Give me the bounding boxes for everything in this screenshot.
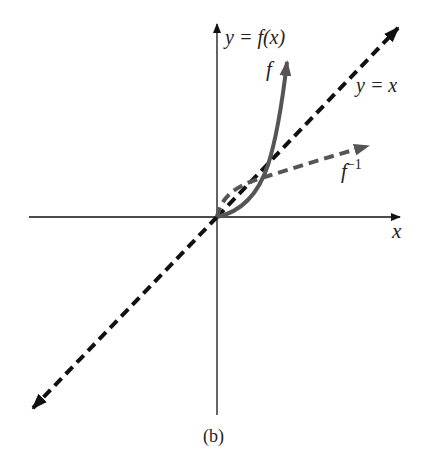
figure-caption: (b) <box>203 426 224 447</box>
identity-line <box>217 28 398 217</box>
y-axis-label: y = f(x) <box>223 26 285 49</box>
f-label: f <box>266 57 275 81</box>
f-inverse-label: f−1 <box>341 157 362 183</box>
identity-line-lower <box>33 217 217 408</box>
x-axis-label: x <box>391 219 402 243</box>
identity-label: y = x <box>354 74 397 97</box>
function-inverse-diagram: y = f(x) f y = x f−1 x (b) <box>0 0 425 458</box>
